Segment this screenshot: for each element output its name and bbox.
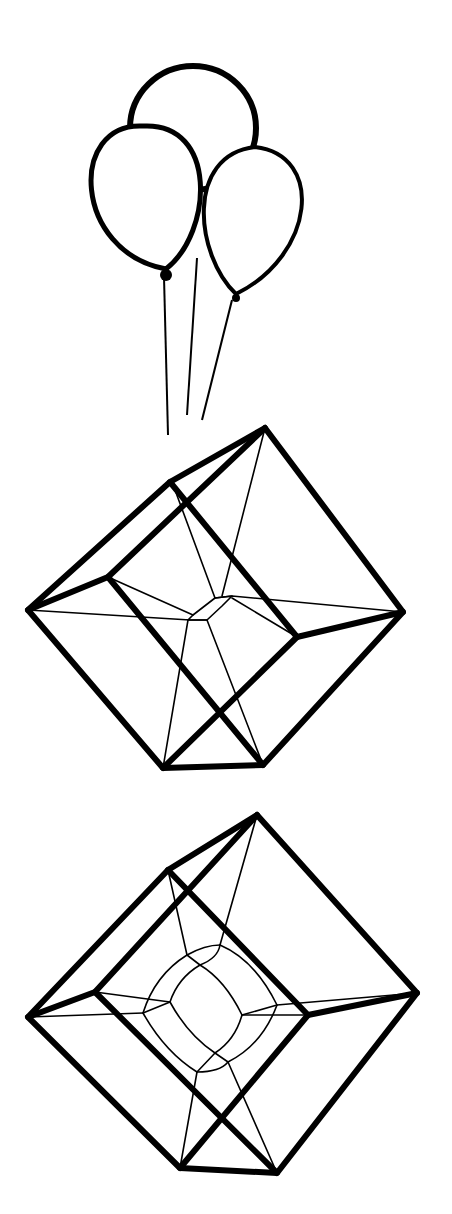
wire-edge-thin — [242, 1005, 277, 1015]
balloon-bunch — [91, 66, 302, 435]
wire-edge-thick — [170, 482, 403, 637]
wire-edge-thick — [168, 870, 417, 1015]
wire-edge-thin — [232, 598, 297, 637]
line-art-illustration — [0, 0, 452, 1214]
wire-edge-thin — [170, 965, 242, 1053]
balloon-string — [187, 258, 197, 415]
balloon-right — [204, 147, 302, 294]
wire-edge-thin — [28, 610, 207, 620]
wire-edge-thin — [187, 945, 220, 955]
wire-edge-thin — [188, 596, 232, 620]
wire-edge-thin — [197, 1053, 215, 1072]
hypercube-wireframe-2 — [28, 815, 417, 1173]
wire-edge-thick — [108, 577, 263, 765]
balloon-left — [91, 126, 200, 269]
balloon-knot — [160, 269, 172, 281]
illustration-canvas — [0, 0, 452, 1214]
wire-edge-thin — [207, 620, 263, 765]
wire-edge-thick — [28, 815, 257, 1017]
balloon-knot — [232, 294, 240, 302]
wire-edge-thin — [220, 945, 277, 1062]
balloon-string — [164, 277, 168, 435]
hypercube-wireframe-1 — [28, 428, 403, 768]
balloon-string — [202, 300, 232, 420]
wire-edge-thin — [187, 955, 200, 965]
wire-edge-thick — [28, 428, 265, 610]
wire-edge-thin — [215, 1053, 228, 1062]
